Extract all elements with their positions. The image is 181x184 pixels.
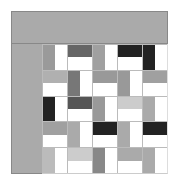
tile-fill bbox=[93, 45, 105, 70]
grid-cell[interactable] bbox=[67, 96, 92, 122]
tile-fill bbox=[143, 148, 155, 173]
tile-fill bbox=[43, 97, 55, 122]
top-frame-band bbox=[11, 11, 168, 44]
grid-cell[interactable] bbox=[92, 121, 117, 147]
tile-fill bbox=[118, 71, 130, 96]
grid-cell[interactable] bbox=[67, 121, 92, 147]
grid-cell[interactable] bbox=[42, 121, 67, 147]
grid-cell[interactable] bbox=[142, 147, 167, 173]
grid-cell[interactable] bbox=[117, 121, 142, 147]
tile-fill bbox=[43, 71, 67, 83]
tile-fill bbox=[93, 97, 105, 122]
grid-cell[interactable] bbox=[92, 70, 117, 96]
tile-fill bbox=[68, 122, 80, 147]
tile-fill bbox=[143, 71, 167, 83]
tile-fill bbox=[68, 71, 80, 96]
tile-fill bbox=[93, 71, 117, 83]
tile-fill bbox=[143, 45, 155, 70]
tile-fill bbox=[43, 122, 67, 134]
tile-fill bbox=[93, 148, 105, 173]
grid-cell[interactable] bbox=[67, 44, 92, 70]
grid-cell[interactable] bbox=[142, 121, 167, 147]
tile-fill bbox=[68, 97, 92, 109]
tile-fill bbox=[143, 122, 167, 134]
grid-cell[interactable] bbox=[42, 70, 67, 96]
grid-cell[interactable] bbox=[67, 70, 92, 96]
tile-fill bbox=[143, 97, 155, 122]
tile-fill bbox=[118, 97, 142, 109]
tile-fill bbox=[118, 45, 142, 57]
grid-cell[interactable] bbox=[42, 147, 67, 173]
grid-cell[interactable] bbox=[142, 70, 167, 96]
tile-fill bbox=[43, 148, 55, 173]
grid-cell[interactable] bbox=[117, 147, 142, 173]
tile-fill bbox=[93, 122, 117, 134]
grid-cell[interactable] bbox=[42, 96, 67, 122]
tile-fill bbox=[68, 148, 92, 160]
grid-cell[interactable] bbox=[92, 96, 117, 122]
grid-cell[interactable] bbox=[117, 96, 142, 122]
tile-fill bbox=[118, 148, 142, 160]
tile-fill bbox=[43, 45, 55, 70]
tile-fill bbox=[68, 45, 92, 57]
grid-cell[interactable] bbox=[92, 147, 117, 173]
tile-fill bbox=[118, 122, 130, 147]
grid-cell[interactable] bbox=[142, 44, 167, 70]
grid-cell[interactable] bbox=[42, 44, 67, 70]
grid-cell[interactable] bbox=[117, 70, 142, 96]
left-frame-band bbox=[11, 43, 43, 174]
grid-cell[interactable] bbox=[117, 44, 142, 70]
tile-grid bbox=[42, 44, 168, 174]
grid-cell[interactable] bbox=[142, 96, 167, 122]
grid-cell[interactable] bbox=[67, 147, 92, 173]
grid-cell[interactable] bbox=[92, 44, 117, 70]
